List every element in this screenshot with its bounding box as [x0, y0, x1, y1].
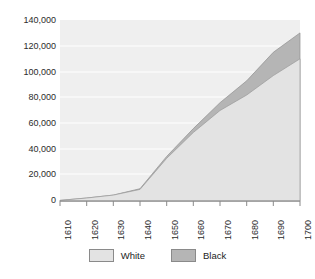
chart-legend: White Black [0, 249, 315, 262]
plot-area [0, 0, 315, 279]
legend-swatch-black [171, 249, 196, 262]
x-axis-tick-label: 1630 [117, 220, 126, 240]
legend-swatch-white [89, 249, 114, 262]
x-axis-ticks [60, 201, 300, 206]
legend-item-black[interactable]: Black [171, 249, 226, 262]
x-axis-tick-label: 1620 [91, 220, 100, 240]
chart-container: 140,000 120,000 100,000 80,000 60,000 40… [0, 0, 315, 279]
x-axis-tick-label: 1700 [304, 220, 313, 240]
legend-label-white: White [121, 251, 145, 261]
x-axis-tick-label: 1670 [224, 220, 233, 240]
x-axis-tick-label: 1660 [197, 220, 206, 240]
x-axis-tick-label: 1640 [144, 220, 153, 240]
x-axis-tick-label: 1680 [251, 220, 260, 240]
legend-item-white[interactable]: White [89, 249, 145, 262]
legend-label-black: Black [203, 251, 226, 261]
x-axis-tick-label: 1690 [277, 220, 286, 240]
x-axis-tick-label: 1650 [171, 220, 180, 240]
x-axis-tick-label: 1610 [64, 220, 73, 240]
